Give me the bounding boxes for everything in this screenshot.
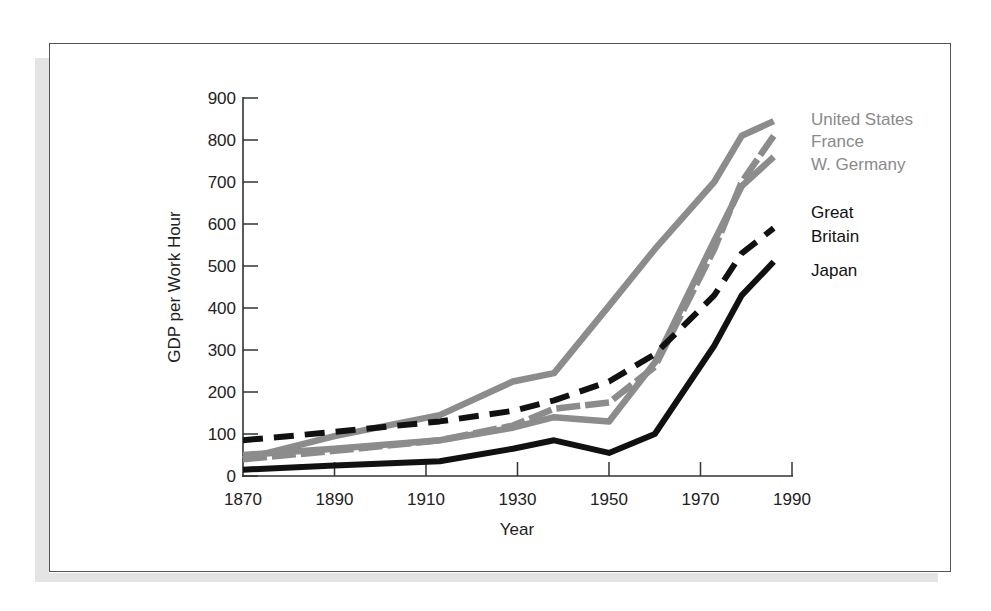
y-tick-label: 200 (208, 383, 236, 402)
line-chart: 0100200300400500600700800900 18701890191… (0, 0, 991, 611)
y-tick-label: 900 (208, 89, 236, 108)
series-great-britain-line (243, 228, 774, 440)
x-tick-label: 1870 (224, 490, 262, 509)
legend-france: France (811, 132, 864, 151)
y-tick-label: 100 (208, 425, 236, 444)
legend-w-germany: W. Germany (811, 155, 906, 174)
y-tick-label: 600 (208, 215, 236, 234)
x-tick-label: 1970 (682, 490, 720, 509)
x-tick-label: 1910 (407, 490, 445, 509)
y-tick-label: 400 (208, 299, 236, 318)
y-axis: 0100200300400500600700800900 (208, 89, 258, 486)
x-axis-title: Year (500, 520, 535, 539)
x-tick-label: 1930 (499, 490, 537, 509)
y-tick-label: 500 (208, 257, 236, 276)
legend: United States France W. Germany Great Br… (811, 110, 913, 280)
legend-great-britain-line1: Great (811, 203, 854, 222)
legend-great-britain-line2: Britain (811, 227, 859, 246)
x-tick-label: 1950 (590, 490, 628, 509)
x-tick-label: 1990 (773, 490, 811, 509)
x-tick-label: 1890 (316, 490, 354, 509)
y-tick-label: 800 (208, 131, 236, 150)
series-lines (243, 121, 774, 470)
y-tick-label: 300 (208, 341, 236, 360)
y-tick-label: 0 (227, 467, 236, 486)
y-axis-title: GDP per Work Hour (165, 211, 184, 363)
legend-japan: Japan (811, 261, 857, 280)
y-tick-label: 700 (208, 173, 236, 192)
legend-united-states: United States (811, 110, 913, 129)
